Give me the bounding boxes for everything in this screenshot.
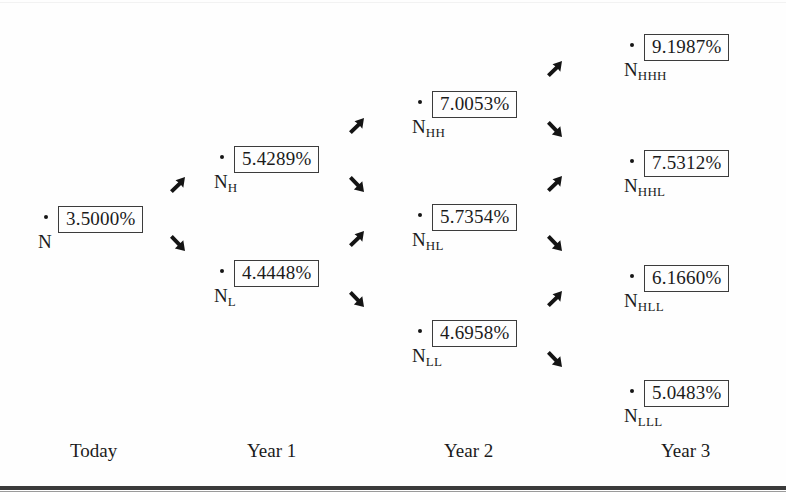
node-dot-icon [220, 269, 224, 273]
arrow-up-n-to-nh-icon [166, 174, 188, 196]
node-dot-icon [630, 389, 634, 393]
node-label-nhl: NHL [412, 230, 444, 250]
arrow-down-nll-to-nlll-icon [543, 348, 565, 370]
node-dot-icon [418, 100, 422, 104]
axis-label-year-1: Year 1 [247, 440, 296, 462]
rate-box-nlll: 5.0483% [644, 380, 729, 407]
arrow-down-n-to-nl-icon [166, 232, 188, 254]
node-label-nhll: NHLL [624, 291, 664, 311]
rate-box-nhll: 6.1660% [644, 265, 729, 292]
arrow-down-nh-to-nhl-icon [345, 173, 367, 195]
rate-box-nhhh: 9.1987% [644, 34, 729, 61]
node-label-nl: NL [214, 286, 236, 306]
node-label-nhhl: NHHL [624, 176, 665, 196]
node-label-n: N [38, 232, 52, 252]
axis-label-today: Today [70, 440, 117, 462]
node-label-nhhh: NHHH [624, 60, 667, 80]
axis-label-year-3: Year 3 [661, 440, 710, 462]
arrow-up-nl-to-nhl-icon [345, 228, 367, 250]
node-dot-icon [630, 274, 634, 278]
node-label-nhh: NHH [412, 117, 445, 137]
arrow-up-nll-to-nhll-icon [543, 288, 565, 310]
node-label-nlll: NLLL [624, 406, 662, 426]
rate-box-nhhl: 7.5312% [644, 150, 729, 177]
arrow-down-nhh-to-nhhl-icon [543, 118, 565, 140]
node-dot-icon [220, 155, 224, 159]
arrow-down-nl-to-nll-icon [345, 288, 367, 310]
binomial-interest-rate-tree-figure: 3.5000% N 5.4289% NH 4.4448% NL 7.0053% … [0, 0, 786, 500]
rate-box-n: 3.5000% [58, 206, 143, 233]
rate-box-nhl: 5.7354% [432, 204, 517, 231]
page-rule-bottom [0, 486, 786, 490]
arrow-down-nhl-to-nhll-icon [543, 232, 565, 254]
rate-box-nl: 4.4448% [234, 260, 319, 287]
node-label-nll: NLL [412, 346, 442, 366]
node-dot-icon [418, 329, 422, 333]
node-dot-icon [418, 213, 422, 217]
arrow-up-nh-to-nhh-icon [345, 115, 367, 137]
rate-box-nh: 5.4289% [234, 146, 319, 173]
page-rule-top [0, 2, 786, 3]
page-rule-bottom-hairline [0, 491, 786, 492]
node-dot-icon [44, 215, 48, 219]
rate-box-nhh: 7.0053% [432, 91, 517, 118]
node-dot-icon [630, 159, 634, 163]
rate-box-nll: 4.6958% [432, 320, 517, 347]
arrow-up-nhh-to-nhhh-icon [543, 58, 565, 80]
node-label-nh: NH [214, 172, 237, 192]
arrow-up-nhl-to-nhhl-icon [543, 173, 565, 195]
node-dot-icon [630, 43, 634, 47]
axis-label-year-2: Year 2 [444, 440, 493, 462]
